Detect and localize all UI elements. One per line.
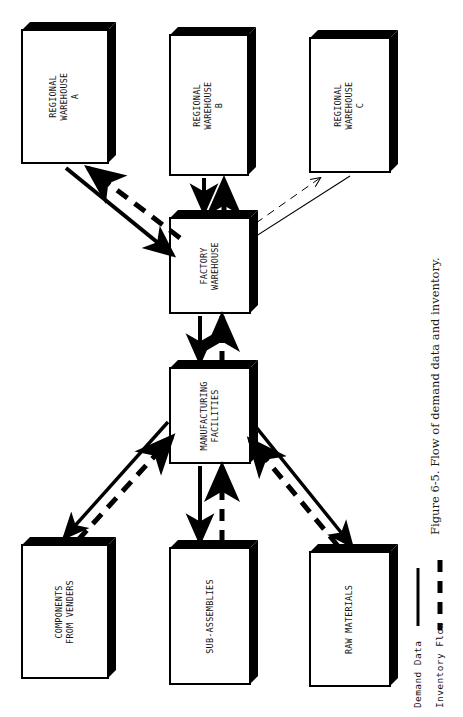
legend-label-demand-data: Demand Data bbox=[412, 641, 423, 708]
arrow-rwc-to-fw-demand bbox=[253, 176, 350, 238]
arrow-fw-to-rwa-inventory bbox=[88, 168, 180, 238]
node-shapes bbox=[22, 22, 398, 686]
legend-label-inventory-flow: Inventory Flow bbox=[434, 622, 445, 708]
node-factory-warehouse[interactable] bbox=[170, 210, 258, 313]
legend-swatches bbox=[418, 560, 440, 630]
node-regional-warehouse-b[interactable] bbox=[170, 27, 256, 175]
node-components-from-venders[interactable] bbox=[22, 537, 116, 678]
node-sub-assemblies[interactable] bbox=[170, 540, 258, 684]
flow-diagram bbox=[0, 0, 463, 717]
figure-caption: Figure 6-5. Flow of demand data and inve… bbox=[428, 257, 442, 535]
arrow-components-to-mf-inventory bbox=[78, 437, 172, 540]
arrow-rwa-to-fw-demand bbox=[66, 168, 173, 255]
node-raw-materials[interactable] bbox=[310, 544, 398, 686]
arrow-mf-to-rawmaterials-demand bbox=[252, 422, 352, 546]
node-regional-warehouse-a[interactable] bbox=[22, 22, 116, 163]
figure-canvas: REGIONAL WAREHOUSE A REGIONAL WAREHOUSE … bbox=[0, 0, 463, 717]
arrow-mf-to-components-demand bbox=[64, 422, 168, 538]
arrow-rawmaterials-to-mf-inventory bbox=[250, 440, 338, 546]
node-regional-warehouse-c[interactable] bbox=[310, 30, 398, 172]
node-manufacturing-facilities[interactable] bbox=[170, 360, 258, 463]
